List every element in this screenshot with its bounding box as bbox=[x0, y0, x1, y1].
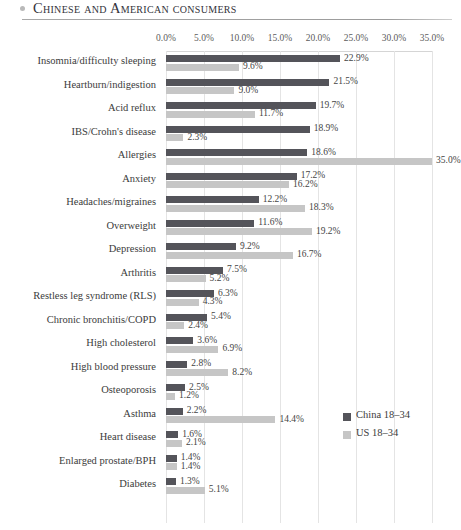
bar-value-china: 18.6% bbox=[311, 147, 336, 157]
legend-swatch-icon bbox=[343, 431, 351, 439]
category-label: Osteoporosis bbox=[0, 384, 156, 395]
bar-us bbox=[166, 64, 239, 71]
bar-value-us: 18.3% bbox=[309, 202, 334, 212]
bullet-dot-icon bbox=[20, 6, 25, 11]
bar-china bbox=[166, 196, 259, 203]
x-axis-tick-0: 0.0% bbox=[156, 33, 176, 43]
bar-us bbox=[166, 252, 293, 259]
bar-us bbox=[166, 228, 312, 235]
category-label: High cholesterol bbox=[0, 337, 156, 348]
bar-us bbox=[166, 463, 177, 470]
legend-label: US 18–34 bbox=[356, 427, 398, 438]
bar-row: Enlarged prostate/BPH1.4%1.4% bbox=[0, 452, 461, 476]
bar-us bbox=[166, 299, 199, 306]
bar-china bbox=[166, 361, 187, 368]
bar-value-china: 12.2% bbox=[263, 194, 288, 204]
chart-header: Chinese and American consumers bbox=[0, 0, 461, 24]
bar-us bbox=[166, 111, 255, 118]
legend-swatch-icon bbox=[343, 413, 351, 421]
bar-us bbox=[166, 440, 182, 447]
bar-value-us: 5.2% bbox=[210, 273, 230, 283]
bar-value-china: 11.6% bbox=[258, 217, 282, 227]
bar-value-us: 9.0% bbox=[238, 85, 258, 95]
category-label: High blood pressure bbox=[0, 361, 156, 372]
bar-us bbox=[166, 346, 218, 353]
bar-row: Arthritis7.5%5.2% bbox=[0, 264, 461, 288]
bar-us bbox=[166, 87, 234, 94]
x-axis-tick-7: 35.0% bbox=[420, 33, 445, 43]
bar-value-us: 8.2% bbox=[232, 367, 252, 377]
bar-china bbox=[166, 149, 307, 156]
bar-value-us: 19.2% bbox=[316, 226, 341, 236]
bar-row: Overweight11.6%19.2% bbox=[0, 217, 461, 241]
bar-us bbox=[166, 393, 175, 400]
bar-row: Osteoporosis2.5%1.2% bbox=[0, 381, 461, 405]
bar-row: Acid reflux19.7%11.7% bbox=[0, 99, 461, 123]
bar-us bbox=[166, 369, 228, 376]
bar-china bbox=[166, 408, 183, 415]
bar-us bbox=[166, 205, 305, 212]
bar-value-us: 4.3% bbox=[203, 296, 223, 306]
bar-china bbox=[166, 337, 193, 344]
category-label: Arthritis bbox=[0, 267, 156, 278]
bar-value-us: 14.4% bbox=[279, 414, 304, 424]
x-axis-tick-4: 20.0% bbox=[306, 33, 331, 43]
category-label: Chronic bronchitis/COPD bbox=[0, 314, 156, 325]
bar-value-china: 5.4% bbox=[211, 311, 231, 321]
x-axis-tick-3: 15.0% bbox=[268, 33, 293, 43]
bar-us bbox=[166, 322, 184, 329]
bar-row: High blood pressure2.8%8.2% bbox=[0, 358, 461, 382]
x-axis-tick-5: 25.0% bbox=[344, 33, 369, 43]
bar-value-china: 7.5% bbox=[227, 264, 247, 274]
bar-value-us: 6.9% bbox=[222, 343, 242, 353]
title-divider bbox=[22, 19, 452, 20]
bar-us bbox=[166, 416, 275, 423]
x-axis-tick-6: 30.0% bbox=[382, 33, 407, 43]
bar-row: Headaches/migraines12.2%18.3% bbox=[0, 193, 461, 217]
x-axis-tick-2: 10.0% bbox=[230, 33, 255, 43]
bar-value-us: 9.6% bbox=[243, 61, 263, 71]
bar-row: Diabetes1.3%5.1% bbox=[0, 475, 461, 499]
category-label: IBS/Crohn's disease bbox=[0, 126, 156, 137]
category-label: Insomnia/difficulty sleeping bbox=[0, 55, 156, 66]
bar-china bbox=[166, 102, 316, 109]
bar-value-us: 1.4% bbox=[181, 461, 201, 471]
bar-us bbox=[166, 134, 183, 141]
bar-row: Chronic bronchitis/COPD5.4%2.4% bbox=[0, 311, 461, 335]
bar-value-china: 3.6% bbox=[197, 335, 217, 345]
bar-china bbox=[166, 431, 178, 438]
category-label: Depression bbox=[0, 243, 156, 254]
bar-row: High cholesterol3.6%6.9% bbox=[0, 334, 461, 358]
bar-us bbox=[166, 158, 432, 165]
bar-us bbox=[166, 275, 206, 282]
category-label: Allergies bbox=[0, 149, 156, 160]
bar-value-china: 9.2% bbox=[240, 241, 260, 251]
bar-value-china: 19.7% bbox=[320, 100, 345, 110]
bar-china bbox=[166, 220, 254, 227]
category-label: Diabetes bbox=[0, 478, 156, 489]
bar-china bbox=[166, 478, 176, 485]
bar-row: Restless leg syndrome (RLS)6.3%4.3% bbox=[0, 287, 461, 311]
category-label: Acid reflux bbox=[0, 102, 156, 113]
bar-value-us: 1.2% bbox=[179, 390, 199, 400]
bar-value-us: 2.4% bbox=[188, 320, 208, 330]
category-label: Restless leg syndrome (RLS) bbox=[0, 290, 156, 301]
bar-china bbox=[166, 243, 236, 250]
bar-row: Insomnia/difficulty sleeping22.9%9.6% bbox=[0, 52, 461, 76]
bar-value-china: 2.8% bbox=[191, 358, 211, 368]
bar-us bbox=[166, 181, 289, 188]
legend-label: China 18–34 bbox=[356, 409, 410, 420]
bar-china bbox=[166, 455, 177, 462]
category-label: Headaches/migraines bbox=[0, 196, 156, 207]
bar-china bbox=[166, 173, 297, 180]
bar-row: Heartburn/indigestion21.5%9.0% bbox=[0, 76, 461, 100]
x-axis-tick-1: 5.0% bbox=[194, 33, 214, 43]
category-label: Heartburn/indigestion bbox=[0, 79, 156, 90]
bar-value-china: 1.3% bbox=[180, 476, 200, 486]
x-axis-tick-labels: 0.0%5.0%10.0%15.0%20.0%25.0%30.0%35.0% bbox=[0, 33, 461, 47]
bar-value-china: 21.5% bbox=[333, 76, 358, 86]
bar-chart: 0.0%5.0%10.0%15.0%20.0%25.0%30.0%35.0% I… bbox=[0, 24, 461, 530]
category-label: Anxiety bbox=[0, 173, 156, 184]
bar-value-us: 16.7% bbox=[297, 249, 322, 259]
bar-row: IBS/Crohn's disease18.9%2.3% bbox=[0, 123, 461, 147]
